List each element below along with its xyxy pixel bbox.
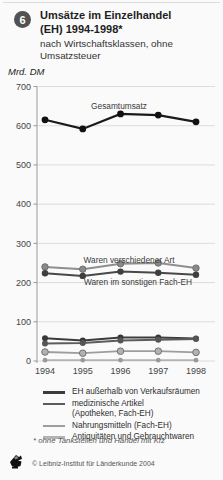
x-axis-label: 1996 (110, 366, 130, 376)
data-point (42, 349, 49, 356)
data-point (80, 358, 85, 363)
header: Umsätze im Einzelhandel (EH) 1994-1998* … (40, 9, 220, 62)
series-annotation: Waren im sonstigen Fach-EH (84, 277, 192, 287)
y-axis-label: 500 (16, 160, 31, 170)
x-axis-label: 1995 (73, 366, 93, 376)
data-point (42, 116, 49, 123)
legend-line-swatch (43, 391, 65, 394)
legend-label: Nahrungsmitteln (Fach-EH) (72, 421, 172, 432)
data-point (117, 111, 124, 118)
institute-logo-icon (6, 451, 26, 471)
legend-label: EH außerhalb von Verkaufsräumen (72, 387, 200, 398)
data-point (155, 337, 161, 343)
y-axis-label: 400 (16, 199, 31, 209)
series-annotation: Gesamtumsatz (91, 101, 147, 111)
copyright-text: © Leibniz-Institut für Länderkunde 2004 (32, 460, 155, 467)
subtitle-line-1: nach Wirtschaftsklassen, ohne (40, 38, 220, 50)
y-axis-label: 0 (26, 356, 31, 366)
footer: © Leibniz-Institut für Länderkunde 2004 (6, 451, 155, 471)
line-chart: 0100200300400500600700199419951996199719… (0, 80, 223, 382)
figure-number-badge: 6 (14, 11, 31, 28)
data-point (155, 348, 162, 355)
y-axis-label: 600 (16, 121, 31, 131)
data-point (80, 266, 86, 272)
data-point (193, 272, 199, 278)
page-title: Umsätze im Einzelhandel (EH) 1994-1998* (40, 9, 220, 36)
data-point (193, 336, 199, 342)
legend-item: EH außerhalb von Verkaufsräumen (43, 387, 221, 398)
legend-line-swatch (43, 403, 65, 406)
y-axis-unit-label: Mrd. DM (8, 66, 44, 77)
data-point (79, 126, 86, 133)
data-point (194, 358, 199, 363)
x-axis-label: 1998 (186, 366, 206, 376)
data-point (42, 340, 48, 346)
x-axis-label: 1997 (148, 366, 168, 376)
legend-label-line-2: (Apotheken, Fach-EH) (72, 409, 153, 418)
y-axis-label: 200 (16, 278, 31, 288)
data-point (193, 265, 199, 271)
data-point (156, 358, 161, 363)
series-annotation: Waren verschiedener Art (84, 255, 176, 265)
legend-item: medizinische Artikel (Apotheken, Fach-EH… (43, 399, 221, 420)
data-point (79, 350, 86, 357)
title-line-1: Umsätze im Einzelhandel (40, 9, 220, 23)
data-point (118, 358, 123, 363)
data-point (117, 348, 124, 355)
data-point (42, 270, 48, 276)
y-axis-label: 100 (16, 317, 31, 327)
legend-item: Nahrungsmitteln (Fach-EH) (43, 421, 221, 432)
data-point (193, 118, 200, 125)
y-axis-label: 700 (16, 82, 31, 92)
top-divider (3, 2, 220, 3)
data-point (42, 264, 48, 270)
x-axis-label: 1994 (35, 366, 55, 376)
legend-label: medizinische Artikel (Apotheken, Fach-EH… (72, 399, 153, 420)
subtitle-line-2: Umsatzsteuer (40, 50, 220, 62)
footnote: * ohne Tankstellen und Handel mit Kfz (33, 436, 165, 445)
data-point (155, 270, 161, 276)
data-point (193, 349, 200, 356)
data-point (43, 358, 48, 363)
data-point (118, 338, 124, 344)
legend-line-swatch (43, 425, 65, 428)
y-axis-label: 300 (16, 239, 31, 249)
data-point (80, 340, 86, 346)
title-line-2: (EH) 1994-1998* (40, 23, 220, 37)
data-point (117, 268, 123, 274)
infographic-card: { "header": { "badge": "6", "title_line1… (0, 0, 223, 480)
legend-label-line-1: medizinische Artikel (72, 399, 144, 408)
data-point (155, 112, 162, 119)
page-subtitle: nach Wirtschaftsklassen, ohne Umsatzsteu… (40, 38, 220, 62)
